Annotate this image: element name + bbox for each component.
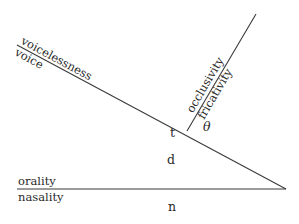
region-label-theta: θ xyxy=(203,119,211,134)
region-label-t: t xyxy=(170,125,175,140)
label-nasality: nasality xyxy=(18,190,64,204)
label-orality: orality xyxy=(18,174,56,188)
region-label-d: d xyxy=(167,152,175,167)
region-label-n: n xyxy=(168,199,176,214)
feature-diagram: voicelessness voice occlusivity fricativ… xyxy=(0,0,299,224)
